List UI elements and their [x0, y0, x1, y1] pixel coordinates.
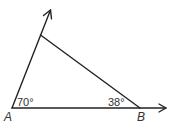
- angle-b-label: 38°: [108, 96, 125, 108]
- ray-a-upper: [12, 10, 51, 108]
- angle-a-label: 70°: [17, 96, 34, 108]
- vertex-b-label: B: [137, 110, 145, 124]
- vertex-a-label: A: [3, 110, 12, 124]
- side-cb: [41, 35, 141, 108]
- triangle-diagram: 70° 38° A B: [0, 0, 174, 133]
